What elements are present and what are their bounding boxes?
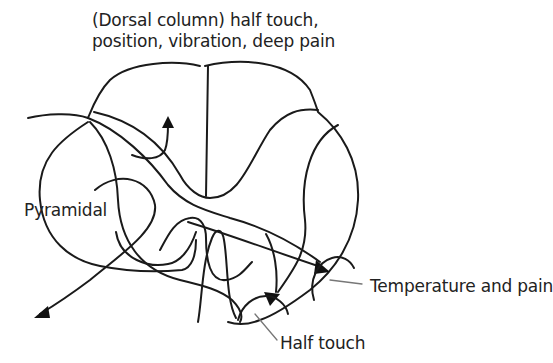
dorsal-column-label-line2: position, vibration, deep pain xyxy=(92,31,335,52)
lateral-boundary-left xyxy=(90,122,242,322)
pyramidal-arrowhead xyxy=(34,306,50,318)
dorsal-column-label: (Dorsal column) half touch, position, vi… xyxy=(92,10,335,52)
half-touch-label: Half touch xyxy=(280,333,365,354)
temperature-pain-label: Temperature and pain xyxy=(370,276,553,297)
half-touch-tract-path xyxy=(266,234,277,292)
temperature-leader-line xyxy=(330,280,362,284)
ventral-median-fissure xyxy=(198,231,236,322)
lateral-boundary-right xyxy=(278,125,338,292)
pyramidal-label: Pyramidal xyxy=(24,200,107,221)
half-touch-region xyxy=(238,296,288,320)
dorsal-median-septum xyxy=(206,66,208,196)
cord-outline-bottom xyxy=(228,320,260,324)
dorsal-horn-left-inner xyxy=(88,118,320,262)
dorsal-column-label-line1: (Dorsal column) half touch, xyxy=(92,10,335,31)
dorsal-column-arrowhead xyxy=(162,116,174,128)
cord-outline-left xyxy=(28,63,200,118)
